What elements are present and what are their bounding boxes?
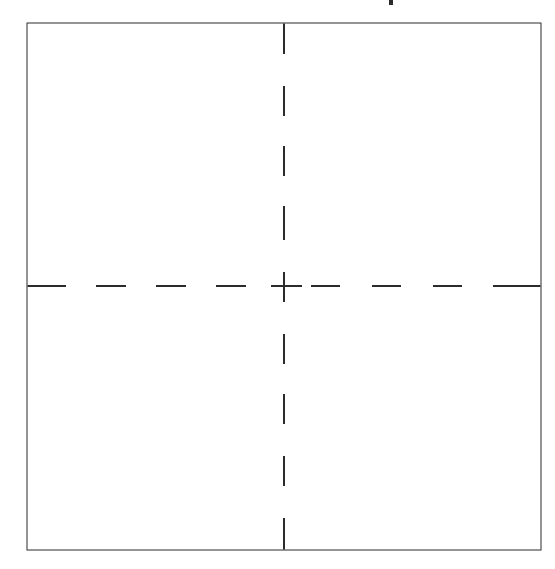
quadrant-bottom-left xyxy=(28,286,285,550)
quadrant-top-right xyxy=(284,24,541,287)
quadrant-diagram xyxy=(0,0,555,569)
quadrant-top-left xyxy=(28,24,285,287)
quadrant-bottom-right xyxy=(284,286,541,550)
